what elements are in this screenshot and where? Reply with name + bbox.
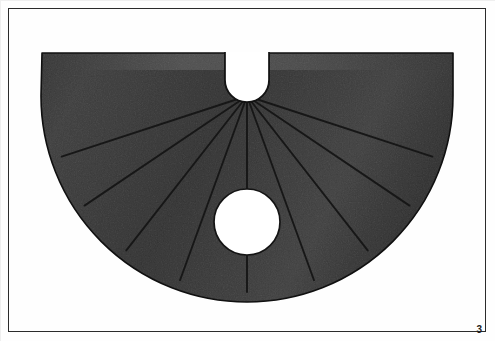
figure-number-label: 3 [476, 324, 482, 336]
fan-plate-diagram [0, 0, 495, 341]
figure-plate: 3 [0, 0, 495, 341]
central-bore-group [214, 189, 280, 255]
keyway-notch-group [225, 52, 269, 102]
keyway-notch-outline [225, 52, 269, 102]
